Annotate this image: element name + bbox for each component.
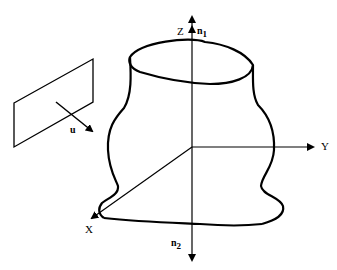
surface-bottom-edge — [104, 218, 262, 226]
projection-plane — [14, 59, 93, 147]
u-label: u — [70, 125, 76, 135]
n1-arrowhead — [188, 25, 196, 33]
n1-label: n1 — [197, 26, 207, 39]
diagram-canvas: Z n1 u Y X n2 — [0, 0, 337, 270]
z-axis-label: Z — [177, 26, 184, 37]
x-axis — [92, 147, 192, 218]
surface-top-rim — [129, 40, 253, 84]
surface-right-side — [253, 65, 283, 224]
x-axis-label: X — [85, 224, 93, 235]
y-axis-label: Y — [321, 141, 329, 152]
n2-label: n2 — [171, 238, 181, 251]
diagram-svg — [0, 0, 337, 270]
